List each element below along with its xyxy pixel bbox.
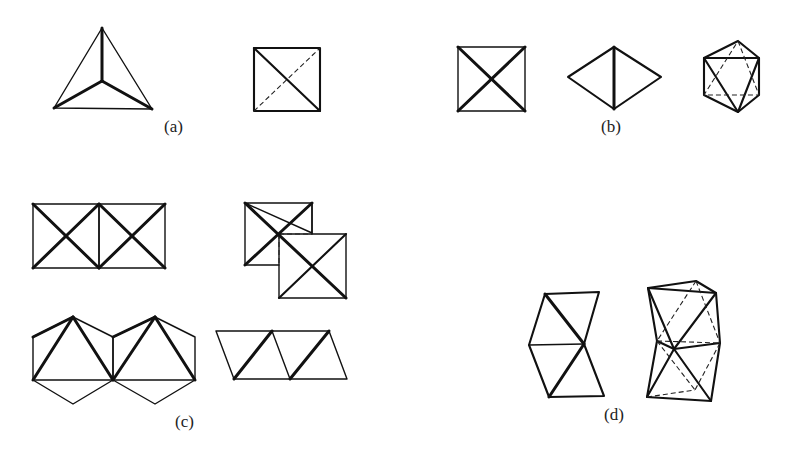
tetrahedron-3fold-view — [54, 28, 152, 109]
octahedron-4fold-view — [458, 47, 525, 111]
polyhedra-diagram — [0, 0, 798, 450]
octahedron-2fold-view — [568, 47, 661, 109]
panel-label-a: (a) — [164, 117, 183, 137]
panel-label-b: (b) — [601, 117, 621, 137]
octahedron-3fold-view — [704, 41, 759, 112]
octahedra-offset-square-view — [245, 203, 346, 298]
panel-label-d: (d) — [604, 405, 624, 425]
panel-label-c: (c) — [175, 412, 194, 432]
tetrahedron-2fold-view — [254, 48, 320, 111]
octahedra-edge-sharing-hexagon-view — [33, 317, 195, 404]
octahedra-face-sharing-flat-view — [529, 292, 604, 397]
octahedra-parallelogram-view — [216, 331, 347, 379]
octahedra-face-sharing-3d-view — [647, 281, 720, 401]
octahedra-edge-sharing-square-view — [33, 204, 165, 268]
